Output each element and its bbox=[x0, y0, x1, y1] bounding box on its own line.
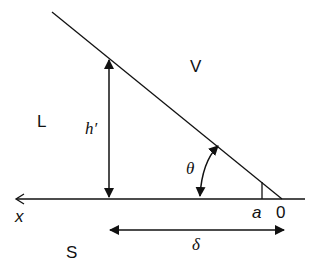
diagram-canvas: V L S h′ θ a 0 x δ bbox=[0, 0, 315, 271]
label-x-axis: x bbox=[15, 208, 24, 225]
label-angle: θ bbox=[186, 160, 194, 177]
label-origin: 0 bbox=[276, 204, 285, 221]
angle-arc bbox=[200, 146, 218, 196]
label-vapor: V bbox=[190, 58, 201, 75]
label-height: h′ bbox=[85, 120, 97, 137]
label-solid: S bbox=[66, 244, 77, 261]
label-distance: δ bbox=[192, 236, 200, 253]
interface-line bbox=[52, 12, 282, 199]
label-point-a: a bbox=[252, 204, 261, 221]
diagram-svg bbox=[0, 0, 315, 271]
label-liquid: L bbox=[37, 113, 46, 130]
